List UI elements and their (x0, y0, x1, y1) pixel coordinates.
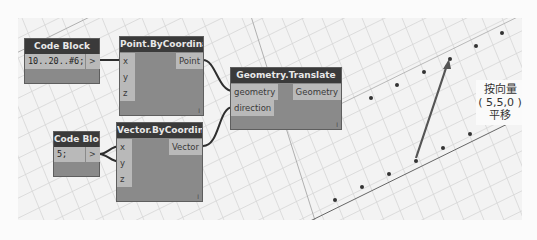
annotation-line-2: ( 5,5,0 ) (476, 96, 522, 109)
geometry-translate-node[interactable]: Geometry.Translate geometry direction Ge… (230, 67, 342, 130)
point-by-coordinates-node[interactable]: Point.ByCoordinates x y z Point l (119, 36, 204, 116)
translation-annotation: 按向量 ( 5,5,0 ) 平移 (476, 80, 522, 125)
node-title: Code Block (54, 132, 99, 147)
lacing-indicator: l (336, 121, 338, 128)
output-port[interactable]: > (86, 147, 100, 162)
input-port-direction[interactable]: direction (231, 100, 274, 116)
annotation-line-3: 平移 (476, 109, 522, 122)
code-block-node-2[interactable]: Code Block 5; > (53, 131, 100, 177)
output-port[interactable]: > (86, 54, 100, 69)
output-port-geometry[interactable]: Geometry (293, 84, 341, 100)
node-title: Point.ByCoordinates (120, 37, 203, 52)
translation-vector-arrow (416, 65, 447, 158)
annotation-line-1: 按向量 (476, 83, 522, 96)
code-input[interactable]: 5; (54, 147, 85, 162)
node-title: Code Block (25, 39, 99, 54)
code-input[interactable]: 10..20..#6; (25, 54, 85, 69)
output-port-vector[interactable]: Vector (169, 139, 202, 155)
node-title: Vector.ByCoordinates (117, 123, 202, 138)
input-port-z[interactable]: z (120, 85, 135, 101)
input-port-x[interactable]: x (117, 139, 132, 155)
input-port-y[interactable]: y (120, 69, 135, 85)
input-port-y[interactable]: y (117, 155, 132, 171)
vector-by-coordinates-node[interactable]: Vector.ByCoordinates x y z Vector l (116, 122, 203, 202)
lacing-indicator: l (198, 107, 200, 114)
input-port-x[interactable]: x (120, 53, 135, 69)
input-port-z[interactable]: z (117, 171, 132, 187)
input-port-geometry[interactable]: geometry (231, 84, 278, 100)
node-title: Geometry.Translate (231, 68, 341, 83)
code-block-node-1[interactable]: Code Block 10..20..#6; > (24, 38, 100, 84)
lacing-indicator: l (197, 193, 199, 200)
output-port-point[interactable]: Point (176, 53, 203, 69)
